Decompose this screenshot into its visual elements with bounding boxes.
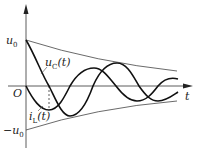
neg-u0-sub: 0: [19, 131, 23, 139]
u0-tick-label: u0: [6, 35, 18, 49]
il-arg: (t): [37, 110, 50, 123]
neg-u0-text: −u: [3, 124, 19, 137]
il-label: iL(t): [29, 111, 50, 125]
damped-oscillation-diagram: [0, 0, 203, 152]
uc-arg: (t): [57, 56, 70, 69]
t-axis-arrow-icon: [183, 84, 193, 89]
origin-label: O: [13, 88, 22, 99]
uc-label: uC(t): [45, 57, 70, 71]
u0-sub: 0: [13, 41, 17, 49]
uc-curve: [26, 40, 178, 116]
t-axis-label: t: [185, 91, 189, 102]
neg-u0-tick-label: −u0: [3, 125, 24, 139]
y-axis-arrow-icon: [24, 4, 29, 14]
